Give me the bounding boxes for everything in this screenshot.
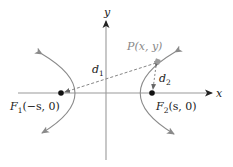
point-p-label: P(x, y) — [126, 40, 162, 53]
hyperbola-diagram: y x P(x, y) d1 d2 F1(−s, 0) F2(s, 0) — [0, 0, 233, 167]
focus-f2-label: F2(s, 0) — [155, 100, 197, 115]
d1-label: d1 — [92, 63, 104, 78]
y-axis-label: y — [103, 6, 111, 19]
focus-f1-label: F1(−s, 0) — [9, 100, 60, 115]
focus-f1-dot — [58, 90, 64, 96]
f2-coords: (s, 0) — [168, 100, 196, 113]
point-p-marker — [154, 58, 160, 64]
focus-f2-dot — [149, 90, 155, 96]
d2-subscript: 2 — [166, 78, 171, 87]
distance-d2-line — [153, 66, 156, 89]
f1-coords: (−s, 0) — [22, 100, 59, 113]
distance-d1-line — [65, 63, 156, 92]
f2-name: F — [155, 100, 164, 113]
d2-label: d2 — [159, 72, 171, 87]
d1-subscript: 1 — [99, 69, 104, 78]
f1-name: F — [9, 100, 18, 113]
x-axis-label: x — [216, 87, 223, 100]
d2-name: d — [159, 72, 166, 85]
d1-name: d — [92, 63, 99, 76]
